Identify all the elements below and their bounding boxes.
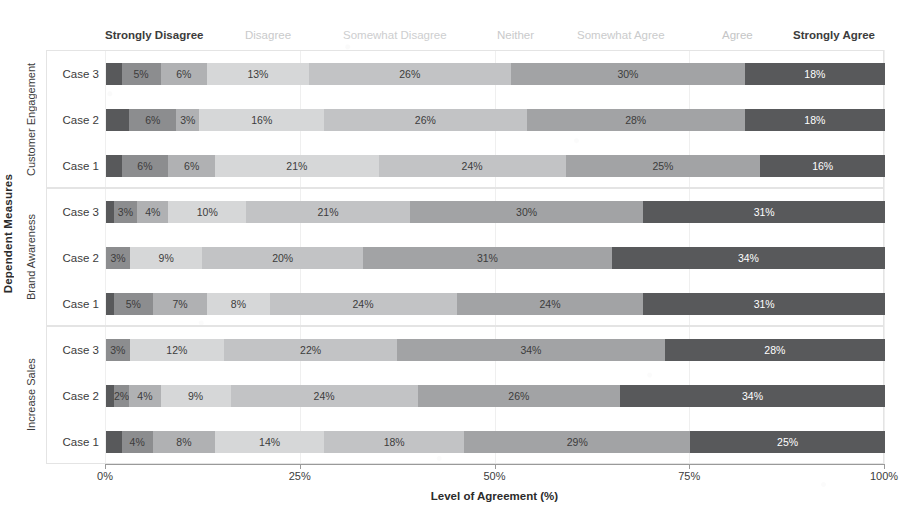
bar-segment[interactable]: 13% [207, 63, 308, 85]
bar-segment[interactable]: 6% [168, 155, 215, 177]
bar-segment[interactable]: 28% [527, 109, 745, 131]
bar-segment[interactable]: 30% [511, 63, 745, 85]
bar-segment[interactable] [106, 293, 114, 315]
bar-segment[interactable] [106, 109, 129, 131]
legend-item-3[interactable]: Neither [497, 26, 534, 44]
x-tick-label: 0% [97, 470, 113, 482]
bar-segment[interactable]: 3% [106, 247, 130, 269]
legend-item-1[interactable]: Disagree [245, 26, 291, 44]
legend-item-0[interactable]: Strongly Disagree [105, 26, 203, 44]
bar-segment[interactable]: 9% [130, 247, 202, 269]
chart-row: Case 33%4%10%21%30%31% [47, 189, 885, 235]
bar-segment[interactable] [106, 63, 122, 85]
bar-segment[interactable] [106, 431, 122, 453]
bar-segment[interactable]: 3% [106, 339, 130, 361]
bar-segment[interactable]: 24% [270, 293, 457, 315]
x-tick-label: 75% [678, 470, 700, 482]
stacked-bar: 4%8%14%18%29%25% [106, 431, 885, 453]
bar-segment[interactable]: 22% [224, 339, 397, 361]
x-tick-label: 25% [289, 470, 311, 482]
bar-segment[interactable]: 31% [643, 293, 884, 315]
bar-segment[interactable]: 2% [114, 385, 130, 407]
bar-segment[interactable]: 25% [690, 431, 885, 453]
bar-segment[interactable] [106, 385, 114, 407]
bar-segment[interactable]: 4% [137, 201, 168, 223]
chart-row: Case 35%6%13%26%30%18% [47, 51, 885, 97]
legend-item-5[interactable]: Agree [722, 26, 753, 44]
stacked-bar: 5%6%13%26%30%18% [106, 63, 885, 85]
bar-segment[interactable]: 31% [643, 201, 884, 223]
bar-segment[interactable]: 31% [363, 247, 612, 269]
bar-segment[interactable]: 28% [665, 339, 885, 361]
x-axis-title: Level of Agreement (%) [105, 490, 884, 502]
bar-segment[interactable]: 29% [464, 431, 690, 453]
bar-segment[interactable]: 9% [161, 385, 231, 407]
bar-segment[interactable]: 24% [379, 155, 566, 177]
bar-segment[interactable]: 34% [612, 247, 885, 269]
likert-stacked-bar-chart: Strongly DisagreeDisagreeSomewhat Disagr… [0, 0, 915, 521]
bar-segment[interactable]: 20% [202, 247, 363, 269]
chart-row: Case 22%4%9%24%26%34% [47, 373, 885, 419]
legend-item-4[interactable]: Somewhat Agree [577, 26, 665, 44]
stacked-bar: 3%9%20%31%34% [106, 247, 885, 269]
row-label: Case 1 [47, 419, 106, 465]
stacked-bar: 5%7%8%24%24%31% [106, 293, 885, 315]
bar-segment[interactable] [106, 201, 114, 223]
bar-segment[interactable]: 6% [161, 63, 208, 85]
bar-segment[interactable]: 18% [324, 431, 464, 453]
bar-segment[interactable]: 34% [397, 339, 665, 361]
bar-segment[interactable] [106, 155, 122, 177]
bar-segment[interactable]: 4% [129, 385, 160, 407]
x-tick-mark [689, 464, 690, 469]
bar-segment[interactable]: 30% [410, 201, 644, 223]
row-label: Case 3 [47, 189, 106, 235]
bar-segment[interactable]: 34% [620, 385, 885, 407]
bar-segment[interactable]: 6% [122, 155, 169, 177]
bar-segment[interactable]: 21% [215, 155, 379, 177]
row-label: Case 2 [47, 235, 106, 281]
bar-segment[interactable]: 8% [153, 431, 215, 453]
bar-segment[interactable]: 14% [215, 431, 324, 453]
bar-segment[interactable]: 24% [231, 385, 418, 407]
bar-segment[interactable]: 18% [745, 63, 885, 85]
bar-segment[interactable]: 16% [199, 109, 324, 131]
bar-segment[interactable]: 3% [114, 201, 137, 223]
bar-segment[interactable]: 12% [130, 339, 224, 361]
bar-segment[interactable]: 24% [457, 293, 644, 315]
chart-row: Case 15%7%8%24%24%31% [47, 281, 885, 327]
chart-row: Case 33%12%22%34%28% [47, 327, 885, 373]
chart-row: Case 16%6%21%24%25%16% [47, 143, 885, 189]
x-tick-mark [884, 464, 885, 469]
panel-group-0: Case 35%6%13%26%30%18%Case 26%3%16%26%28… [46, 50, 884, 188]
bar-segment[interactable]: 4% [122, 431, 153, 453]
row-label: Case 2 [47, 97, 106, 143]
bar-segment[interactable]: 26% [418, 385, 621, 407]
legend-item-6[interactable]: Strongly Agree [793, 26, 875, 44]
stacked-bar: 6%6%21%24%25%16% [106, 155, 885, 177]
bar-segment[interactable]: 8% [207, 293, 269, 315]
group-title-1: Brand Awareness [22, 188, 40, 326]
chart-row: Case 14%8%14%18%29%25% [47, 419, 885, 465]
chart-row: Case 23%9%20%31%34% [47, 235, 885, 281]
bar-segment[interactable]: 16% [760, 155, 885, 177]
panel-group-1: Case 33%4%10%21%30%31%Case 23%9%20%31%34… [46, 188, 884, 326]
bar-segment[interactable]: 26% [309, 63, 512, 85]
group-title-0: Customer Engagement [22, 50, 40, 188]
chart-legend: Strongly DisagreeDisagreeSomewhat Disagr… [105, 26, 884, 44]
bar-segment[interactable]: 7% [153, 293, 208, 315]
bar-segment[interactable]: 25% [566, 155, 761, 177]
chart-row: Case 26%3%16%26%28%18% [47, 97, 885, 143]
bar-segment[interactable]: 6% [129, 109, 176, 131]
legend-item-2[interactable]: Somewhat Disagree [343, 26, 447, 44]
bar-segment[interactable]: 5% [114, 293, 153, 315]
stacked-bar: 2%4%9%24%26%34% [106, 385, 885, 407]
bar-segment[interactable]: 21% [246, 201, 410, 223]
bar-segment[interactable]: 5% [122, 63, 161, 85]
bar-segment[interactable]: 18% [745, 109, 885, 131]
bar-segment[interactable]: 10% [168, 201, 246, 223]
row-label: Case 1 [47, 143, 106, 189]
bar-segment[interactable]: 3% [176, 109, 199, 131]
bar-segment[interactable]: 26% [324, 109, 527, 131]
x-tick-label: 50% [483, 470, 505, 482]
panel-group-2: Case 33%12%22%34%28%Case 22%4%9%24%26%34… [46, 326, 884, 464]
